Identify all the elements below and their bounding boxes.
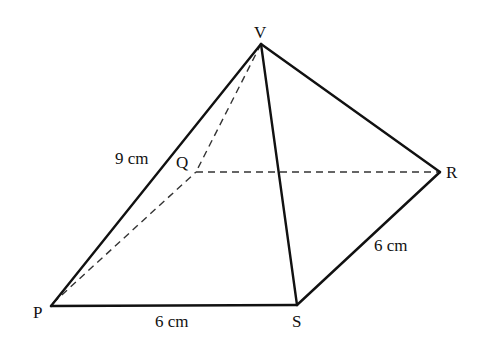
vertex-label-v: V (254, 23, 267, 42)
edge-vr (261, 44, 440, 172)
pyramid-diagram: V P Q R S 9 cm 6 cm 6 cm (0, 0, 486, 341)
edge-vs (261, 44, 297, 305)
vertex-label-q: Q (176, 153, 188, 172)
vertex-label-s: S (292, 312, 301, 331)
edge-vp (51, 44, 261, 306)
measurement-sr: 6 cm (374, 236, 408, 255)
measurement-ps: 6 cm (155, 312, 189, 331)
measurement-vp: 9 cm (115, 149, 149, 168)
vertex-label-p: P (33, 303, 42, 322)
vertex-label-r: R (446, 163, 458, 182)
edge-ps (51, 305, 297, 306)
edge-sr (297, 172, 440, 305)
edge-pq-hidden (53, 172, 196, 303)
edge-vq-hidden (196, 44, 261, 172)
